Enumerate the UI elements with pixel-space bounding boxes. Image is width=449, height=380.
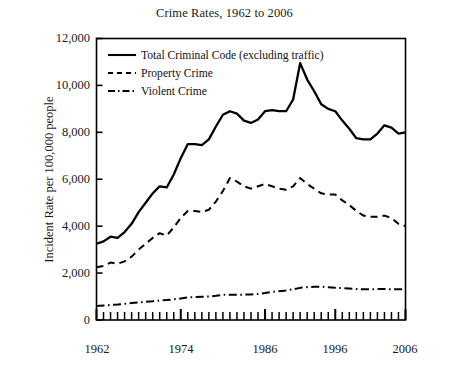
series-line-2 (97, 287, 406, 306)
legend-label-property: Property Crime (141, 67, 213, 80)
plot-border (97, 39, 406, 321)
series-line-1 (97, 178, 406, 267)
data-series-group (97, 63, 406, 306)
y-axis-ticks (97, 39, 103, 321)
chart-figure: Crime Rates, 1962 to 2006 Incident Rate … (0, 0, 449, 380)
legend-label-violent: Violent Crime (141, 85, 207, 98)
x-axis-ticks (97, 309, 406, 320)
chart-legend: Total Criminal Code (excluding traffic) … (108, 49, 324, 98)
axis-frame (97, 39, 406, 321)
plot-area: Total Criminal Code (excluding traffic) … (0, 0, 449, 380)
legend-label-total: Total Criminal Code (excluding traffic) (141, 49, 324, 62)
